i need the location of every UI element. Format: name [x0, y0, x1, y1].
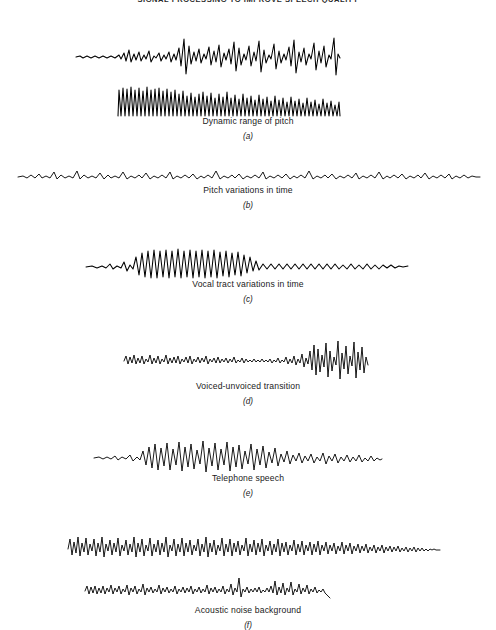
panel-b-letter: (b) — [0, 201, 496, 210]
figure-panel-f: Acoustic noise background (f) — [0, 529, 496, 630]
panel-c-traces — [0, 243, 496, 279]
figure-panel-e: Telephone speech (e) — [0, 435, 496, 498]
waveform-b — [18, 171, 480, 179]
panel-a-letter: (a) — [0, 132, 496, 141]
panel-e-traces — [0, 435, 496, 473]
waveform-d — [124, 341, 368, 379]
panel-d-traces — [0, 337, 496, 381]
waveform-a-lower — [118, 87, 340, 116]
panel-c-letter: (c) — [0, 295, 496, 304]
waveform-c — [86, 249, 408, 278]
figure-panel-a: Dynamic range of pitch (a) — [0, 28, 496, 141]
panel-e-letter: (e) — [0, 489, 496, 498]
panel-e-svg — [0, 435, 496, 473]
panel-d-letter: (d) — [0, 397, 496, 406]
panel-a-caption: Dynamic range of pitch — [0, 116, 496, 127]
panel-c-caption: Vocal tract variations in time — [0, 279, 496, 290]
figure-panel-d: Voiced-unvoiced transition (d) — [0, 337, 496, 406]
waveform-e — [94, 441, 382, 472]
waveform-a-upper — [76, 38, 340, 75]
figure-panel-c: Vocal tract variations in time (c) — [0, 243, 496, 304]
panel-c-svg — [0, 243, 496, 279]
waveform-f-upper — [68, 537, 440, 557]
panel-f-svg — [0, 529, 496, 605]
panel-f-letter: (f) — [0, 621, 496, 630]
waveform-f-lower — [85, 578, 330, 598]
panel-f-caption: Acoustic noise background — [0, 605, 496, 616]
panel-d-caption: Voiced-unvoiced transition — [0, 381, 496, 392]
running-header: SIGNAL PROCESSING TO IMPROVE SPEECH QUAL… — [0, 0, 496, 3]
panel-a-traces — [0, 28, 496, 116]
panel-f-traces — [0, 529, 496, 605]
panel-d-svg — [0, 337, 496, 381]
panel-e-caption: Telephone speech — [0, 473, 496, 484]
panel-b-traces — [0, 163, 496, 185]
panel-b-svg — [0, 163, 496, 185]
panel-a-svg — [0, 28, 496, 116]
panel-b-caption: Pitch variations in time — [0, 185, 496, 196]
figure-panel-b: Pitch variations in time (b) — [0, 163, 496, 210]
